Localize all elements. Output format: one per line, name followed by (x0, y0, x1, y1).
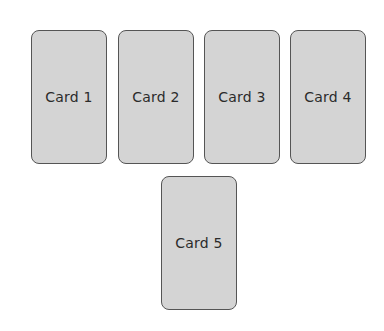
card-3[interactable]: Card 3 (204, 30, 280, 164)
card-5[interactable]: Card 5 (161, 176, 237, 310)
card-label: Card 5 (175, 235, 222, 251)
card-label: Card 2 (132, 89, 179, 105)
card-2[interactable]: Card 2 (118, 30, 194, 164)
card-label: Card 3 (218, 89, 265, 105)
card-label: Card 1 (45, 89, 92, 105)
card-1[interactable]: Card 1 (31, 30, 107, 164)
card-label: Card 4 (304, 89, 351, 105)
card-4[interactable]: Card 4 (290, 30, 366, 164)
